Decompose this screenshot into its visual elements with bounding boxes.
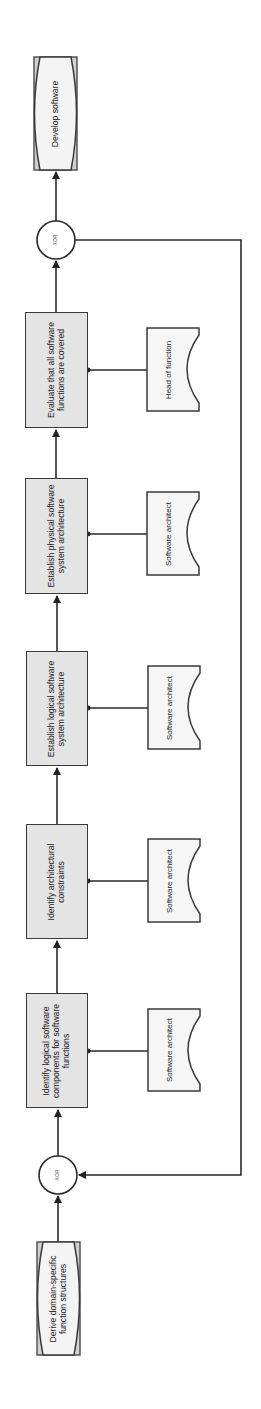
role-label: Software architect	[165, 669, 174, 747]
end-event-label: Develop software	[51, 62, 61, 166]
role-software-architect: Software architect	[147, 492, 199, 575]
function-identify-logical-components: Identify logical software components for…	[26, 993, 88, 1108]
role-label: Software architect	[165, 1011, 174, 1089]
role-label: Software architect	[165, 842, 174, 920]
xor-split-gateway: XOR	[37, 221, 75, 259]
function-label: Establish logical software system archit…	[47, 655, 67, 763]
function-label: Identify architectural constraints	[47, 828, 67, 936]
xor-split-label: XOR	[53, 230, 59, 250]
end-event: Develop software	[34, 57, 77, 170]
epc-diagram: Develop software XOR Evaluate that all s…	[0, 0, 261, 1409]
role-software-architect: Software architect	[148, 1009, 200, 1091]
role-label: Software architect	[164, 495, 173, 573]
function-identify-constraints: Identify architectural constraints	[26, 824, 88, 939]
start-event-label: Derive domain-specific function structur…	[49, 1247, 69, 1351]
function-evaluate-coverage: Evaluate that all software functions are…	[25, 312, 88, 428]
function-label: Establish physical software system archi…	[47, 482, 67, 590]
role-software-architect: Software architect	[148, 839, 200, 922]
role-software-architect: Software architect	[148, 666, 200, 749]
function-label: Evaluate that all software functions are…	[47, 316, 67, 424]
start-event: Derive domain-specific function structur…	[37, 1242, 80, 1355]
xor-join-gateway: XOR	[39, 1156, 77, 1194]
role-head-of-function: Head of function	[147, 328, 199, 411]
role-label: Head of function	[164, 331, 173, 409]
function-establish-logical-architecture: Establish logical software system archit…	[26, 651, 88, 766]
xor-join-label: XOR	[55, 1165, 61, 1185]
function-establish-physical-architecture: Establish physical software system archi…	[25, 478, 88, 594]
function-label: Identify logical software components for…	[42, 997, 72, 1105]
